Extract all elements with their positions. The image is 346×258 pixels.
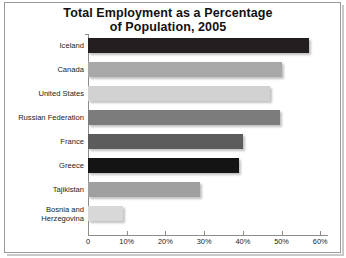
bar-row xyxy=(88,180,328,204)
x-tick-label: 20% xyxy=(158,237,173,246)
category-axis-labels: IcelandCanadaUnited StatesRussian Federa… xyxy=(8,36,84,234)
x-tick-label: 0 xyxy=(86,237,90,246)
bar-row xyxy=(88,60,328,84)
x-tick-mark xyxy=(127,231,128,235)
x-tick-mark xyxy=(243,231,244,235)
category-label-line: Greece xyxy=(8,161,84,170)
chart-title: Total Employment as a Percentage of Popu… xyxy=(18,6,318,34)
chart-title-line-1: Total Employment as a Percentage xyxy=(63,6,272,20)
category-label: Tajikistan xyxy=(8,185,84,194)
x-tick-label: 40% xyxy=(235,237,250,246)
bar xyxy=(88,158,239,173)
x-tick-mark xyxy=(320,231,321,235)
category-label-line: France xyxy=(8,137,84,146)
x-tick-mark xyxy=(165,231,166,235)
category-label-line: Canada xyxy=(8,65,84,74)
x-tick-mark xyxy=(282,231,283,235)
category-label: Russian Federation xyxy=(8,113,84,122)
bar-row xyxy=(88,204,328,228)
bar xyxy=(88,182,200,197)
x-tick-mark xyxy=(88,231,89,235)
category-label-line: Russian Federation xyxy=(8,113,84,122)
category-label-line: Iceland xyxy=(8,41,84,50)
category-label-line: Herzegovina xyxy=(8,214,84,223)
figure-shadow-right xyxy=(342,5,344,256)
figure-shadow-bottom xyxy=(7,254,344,256)
category-label: Bosnia andHerzegovina xyxy=(8,205,84,223)
bar xyxy=(88,62,282,77)
category-label: Canada xyxy=(8,65,84,74)
bar-series xyxy=(88,36,328,234)
bar xyxy=(88,110,280,125)
bar xyxy=(88,38,309,53)
bar-row xyxy=(88,84,328,108)
category-label-line: Bosnia and xyxy=(8,205,84,214)
bar-row xyxy=(88,108,328,132)
bar-row xyxy=(88,132,328,156)
category-label: France xyxy=(8,137,84,146)
bar xyxy=(88,206,123,221)
x-tick-label: 10% xyxy=(119,237,134,246)
x-axis-ticks: 010%20%30%40%50%60% xyxy=(88,231,332,253)
category-label: Iceland xyxy=(8,41,84,50)
category-label-line: Tajikistan xyxy=(8,185,84,194)
x-tick-mark xyxy=(204,231,205,235)
y-axis-top-cap xyxy=(85,34,89,35)
bar-row xyxy=(88,156,328,180)
x-tick-label: 60% xyxy=(313,237,328,246)
bar xyxy=(88,86,270,101)
category-label-line: United States xyxy=(8,89,84,98)
chart-title-line-2: of Population, 2005 xyxy=(18,20,318,34)
bar xyxy=(88,134,243,149)
category-label: United States xyxy=(8,89,84,98)
bar-row xyxy=(88,36,328,60)
x-tick-label: 50% xyxy=(274,237,289,246)
x-tick-label: 30% xyxy=(197,237,212,246)
chart-screenshot: Total Employment as a Percentage of Popu… xyxy=(0,0,346,258)
category-label: Greece xyxy=(8,161,84,170)
